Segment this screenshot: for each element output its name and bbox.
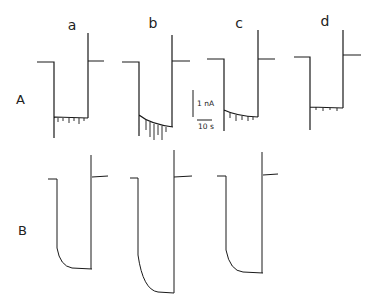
trace-A-a — [37, 33, 104, 138]
column-labels: a b c d — [68, 13, 330, 33]
row-label-B: B — [18, 223, 27, 238]
trace-B-b — [130, 150, 192, 293]
column-label-d: d — [321, 13, 330, 29]
trace-B-c — [217, 152, 278, 273]
figure-panel: 1 nA 10 s A B a b c d — [0, 0, 371, 306]
column-label-c: c — [235, 15, 243, 31]
trace-B-a — [48, 155, 108, 269]
noise-A-a — [58, 118, 84, 124]
scale-bar: 1 nA 10 s — [193, 90, 215, 131]
trace-A-c — [207, 30, 275, 131]
trace-A-d — [294, 30, 361, 130]
row-labels: A B — [16, 92, 27, 238]
row-label-A: A — [16, 92, 25, 107]
column-label-a: a — [68, 17, 77, 33]
scale-bar-current-label: 1 nA — [197, 99, 215, 108]
current-traces — [37, 30, 361, 293]
column-label-b: b — [149, 15, 158, 31]
electrophysiology-traces: 1 nA 10 s A B a b c d — [0, 0, 371, 306]
trace-A-b — [122, 35, 190, 136]
noise-A-c — [230, 113, 253, 121]
scale-bar-time-label: 10 s — [198, 122, 214, 131]
